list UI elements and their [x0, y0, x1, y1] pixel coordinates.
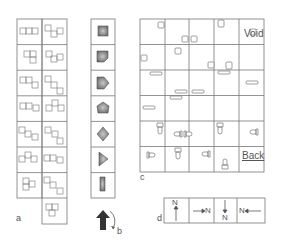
d-label-left: N	[239, 206, 245, 215]
d-label-right: N	[205, 206, 211, 215]
panel-label-d: d	[157, 213, 162, 223]
d-label-down: N	[222, 213, 228, 222]
d-label-up: N	[172, 198, 178, 207]
panel-d-graphic	[0, 0, 282, 240]
